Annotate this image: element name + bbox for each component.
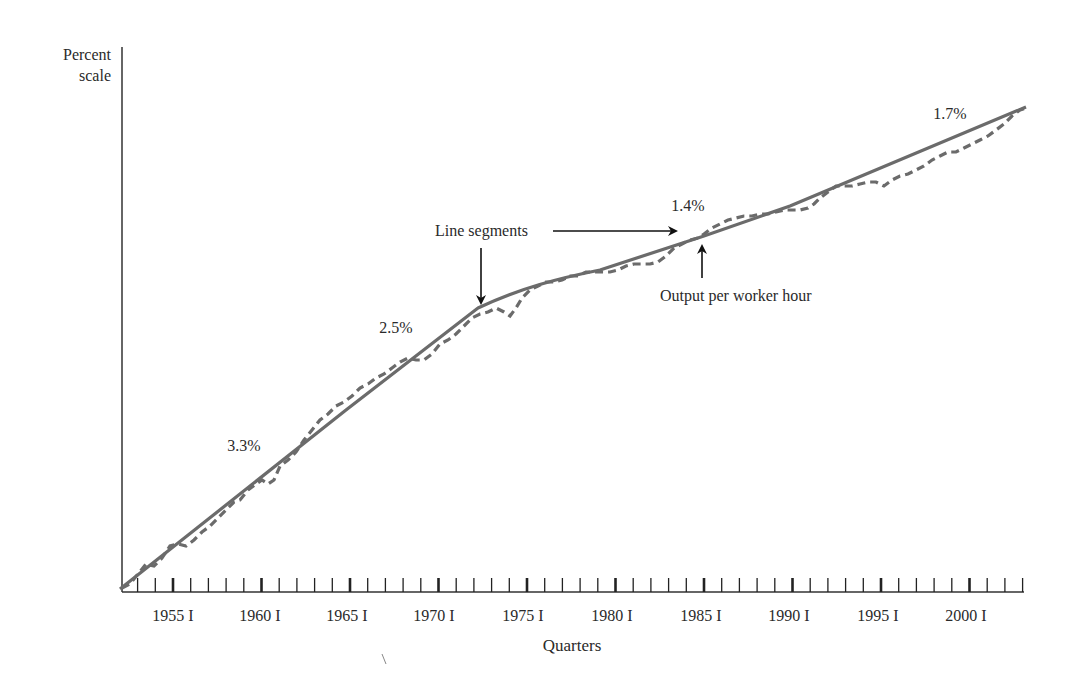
tick-label: 1970 I bbox=[413, 607, 454, 624]
line-segments-annotation: Line segments bbox=[435, 222, 528, 240]
tick-label: 1995 I bbox=[857, 607, 898, 624]
tick-label: 1955 I bbox=[152, 607, 193, 624]
tick-label: 1990 I bbox=[768, 607, 809, 624]
rate-label-3-3: 3.3% bbox=[227, 437, 260, 454]
rate-label-1-4: 1.4% bbox=[671, 197, 704, 214]
rate-label-2-5: 2.5% bbox=[379, 319, 412, 336]
chart: Percent scale Quarters 1955 I 1960 I 196… bbox=[0, 0, 1087, 696]
x-tick-labels: 1955 I 1960 I 1965 I 1970 I 1975 I 1980 … bbox=[152, 607, 986, 624]
x-axis-label: Quarters bbox=[543, 636, 602, 655]
rate-label-1-7: 1.7% bbox=[933, 105, 966, 122]
x-ticks bbox=[138, 578, 1023, 592]
tick-label: 1960 I bbox=[239, 607, 280, 624]
tick-label: 1975 I bbox=[502, 607, 543, 624]
y-axis-label-line2: scale bbox=[79, 67, 111, 84]
scan-mark bbox=[382, 654, 386, 664]
y-axis-label-line1: Percent bbox=[63, 46, 112, 63]
output-per-worker-hour-annotation: Output per worker hour bbox=[660, 287, 812, 305]
trend-line-segments bbox=[120, 107, 1026, 589]
tick-label: 1980 I bbox=[591, 607, 632, 624]
tick-label: 1985 I bbox=[680, 607, 721, 624]
tick-label: 2000 I bbox=[945, 607, 986, 624]
tick-label: 1965 I bbox=[326, 607, 367, 624]
output-per-worker-hour-series bbox=[122, 108, 1026, 588]
